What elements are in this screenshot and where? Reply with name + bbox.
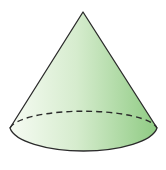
cone-diagram bbox=[0, 0, 166, 170]
cone-figure bbox=[0, 0, 166, 170]
cone-body bbox=[10, 12, 157, 151]
